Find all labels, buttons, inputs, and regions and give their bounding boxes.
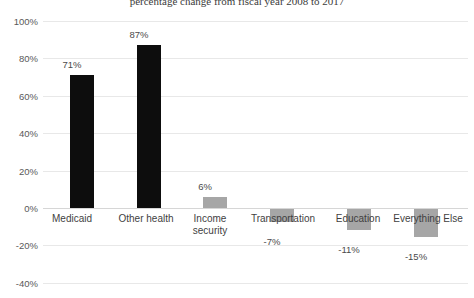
gridline-60 — [43, 96, 468, 97]
y-axis-tick-0: 0% — [0, 204, 38, 214]
value-label-everything-else: -15% — [392, 251, 440, 262]
value-label-transportation: -7% — [248, 236, 296, 247]
value-label-income-security: 6% — [181, 181, 229, 192]
gridline-100 — [43, 21, 468, 22]
category-label-income-security: Income security — [178, 213, 242, 237]
category-label-other-health-line1: Other health — [118, 213, 173, 224]
gridline-20 — [43, 171, 468, 172]
category-label-medicaid-line1: Medicaid — [52, 213, 92, 224]
y-axis-tick-20: 20% — [0, 167, 38, 177]
value-label-other-health: 87% — [115, 29, 163, 40]
chart-title: percentage change from fiscal year 2008 … — [0, 0, 474, 8]
y-axis-tick-40: 40% — [0, 129, 38, 139]
gridline-zero — [43, 208, 468, 209]
category-label-income-security-line2: security — [178, 225, 242, 237]
gridline-80 — [43, 58, 468, 59]
category-label-other-health: Other health — [102, 213, 190, 225]
category-label-income-security-line1: Income — [194, 213, 227, 224]
category-label-transportation: Transportation — [238, 213, 328, 225]
category-label-education-line1: Education — [336, 213, 380, 224]
y-axis-tick-60: 60% — [0, 92, 38, 102]
category-label-transportation-line1: Transportation — [251, 213, 315, 224]
y-axis-tick-80: 80% — [0, 54, 38, 64]
gridline-40 — [43, 133, 468, 134]
bar-chart: percentage change from fiscal year 2008 … — [0, 0, 474, 298]
value-label-education: -11% — [325, 244, 373, 255]
category-label-everything-else: Everything Else — [382, 213, 474, 225]
category-label-everything-else-line1: Everything Else — [393, 213, 462, 224]
category-label-medicaid: Medicaid — [40, 213, 104, 225]
bar-income-security — [203, 197, 227, 208]
value-label-medicaid: 71% — [48, 59, 96, 70]
y-axis-tick-100: 100% — [0, 17, 38, 27]
y-axis-tick-neg20: -20% — [0, 241, 38, 251]
gridline-neg40 — [43, 283, 468, 284]
bar-other-health — [137, 45, 161, 208]
bar-medicaid — [70, 75, 94, 208]
y-axis-tick-neg40: -40% — [0, 279, 38, 289]
